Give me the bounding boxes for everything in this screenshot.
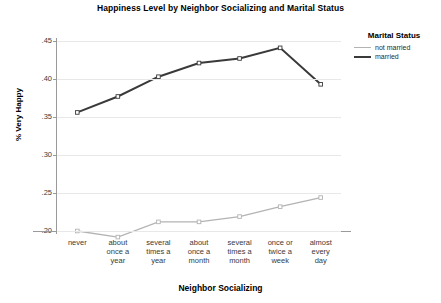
x-axis-tick-label-line: never xyxy=(55,238,99,247)
y-axis-tick-mark xyxy=(53,117,57,118)
data-point-marker xyxy=(197,61,201,65)
y-axis-tick-labels: .45.40.35.30.25.20 xyxy=(18,0,52,303)
legend: Marital Status not marriedmarried xyxy=(348,31,440,62)
x-axis-tick-label-line: month xyxy=(218,256,262,265)
legend-item-label: married xyxy=(375,53,399,60)
x-axis-tick-label-line: times a xyxy=(218,247,262,256)
data-point-marker xyxy=(238,57,242,61)
x-axis-tick-label-line: year xyxy=(96,256,140,265)
data-point-marker xyxy=(157,220,161,224)
data-point-marker xyxy=(278,205,282,209)
x-axis-tick-label: aboutonce amonth xyxy=(177,238,221,265)
x-axis-tick-label-line: once a xyxy=(177,247,221,256)
x-axis-tick-label-line: times a xyxy=(136,247,180,256)
x-axis-tick-label-line: once or xyxy=(258,238,302,247)
y-axis-tick-label: .30 xyxy=(22,150,52,159)
legend-title: Marital Status xyxy=(348,31,440,40)
series-layer xyxy=(57,41,341,231)
y-axis-title: % Very Happy xyxy=(14,70,23,160)
grid-line xyxy=(57,79,341,80)
x-axis-tick-label-line: month xyxy=(177,256,221,265)
x-axis-tick-label-line: several xyxy=(218,238,262,247)
x-axis-tick-label-line: almost xyxy=(299,238,343,247)
x-axis-tick-label: severaltimes ayear xyxy=(136,238,180,265)
x-axis-tick-label-line: once a xyxy=(96,247,140,256)
legend-entries: not marriedmarried xyxy=(348,44,440,60)
y-axis-tick-mark xyxy=(53,41,57,42)
x-axis-tick-label: severaltimes amonth xyxy=(218,238,262,265)
y-axis-tick-label: .35 xyxy=(22,112,52,121)
legend-line-swatch xyxy=(354,47,371,48)
legend-item-label: not married xyxy=(375,44,410,51)
y-axis-tick-mark xyxy=(53,155,57,156)
chart-container: Happiness Level by Neighbor Socializing … xyxy=(0,0,441,303)
x-axis-title: Neighbor Socializing xyxy=(0,283,441,293)
chart-title: Happiness Level by Neighbor Socializing … xyxy=(0,3,441,13)
data-point-marker xyxy=(238,215,242,219)
grid-line xyxy=(57,41,341,42)
x-axis-tick-label-line: week xyxy=(258,256,302,265)
y-axis-tick-label: .25 xyxy=(22,188,52,197)
grid-line xyxy=(57,231,341,232)
plot-area xyxy=(57,41,341,231)
data-point-marker xyxy=(197,220,201,224)
x-axis-tick-label: never xyxy=(55,238,99,247)
y-axis-tick-mark xyxy=(53,79,57,80)
x-axis-tick-label-line: twice a xyxy=(258,247,302,256)
y-axis-tick-label: .45 xyxy=(22,36,52,45)
x-axis-tick-label-line: day xyxy=(299,256,343,265)
x-axis-tick-label: almosteveryday xyxy=(299,238,343,265)
data-point-marker xyxy=(319,83,323,87)
grid-line xyxy=(57,193,341,194)
legend-item-not-married[interactable]: not married xyxy=(348,44,440,51)
x-axis-tick-label-line: year xyxy=(136,256,180,265)
data-point-marker xyxy=(157,75,161,79)
data-point-marker xyxy=(319,196,323,200)
x-axis-tick-label-line: several xyxy=(136,238,180,247)
data-point-marker xyxy=(75,111,79,115)
data-point-marker xyxy=(278,46,282,50)
series-line-married xyxy=(77,48,320,113)
y-axis-tick-mark xyxy=(53,193,57,194)
x-axis-tick-label-line: every xyxy=(299,247,343,256)
grid-line xyxy=(57,117,341,118)
x-axis-tick-label-line: about xyxy=(96,238,140,247)
grid-line xyxy=(57,155,341,156)
y-axis-tick-mark xyxy=(53,231,57,232)
x-axis-tick-label: aboutonce ayear xyxy=(96,238,140,265)
x-axis-tick-label-line: about xyxy=(177,238,221,247)
legend-line-swatch xyxy=(354,56,371,58)
legend-item-married[interactable]: married xyxy=(348,53,440,60)
x-axis-tick-label: once ortwice aweek xyxy=(258,238,302,265)
data-point-marker xyxy=(116,95,120,99)
y-axis-tick-label: .40 xyxy=(22,74,52,83)
